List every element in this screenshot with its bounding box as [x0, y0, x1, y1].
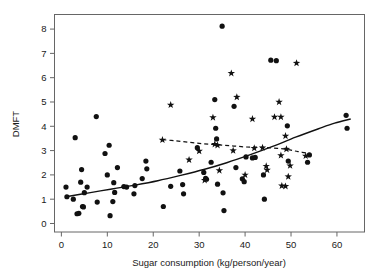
data-point-circle: [105, 172, 110, 177]
data-point-circle: [64, 194, 69, 199]
data-point-circle: [81, 204, 86, 209]
data-point-circle: [63, 184, 68, 189]
x-tick-label-0: 0: [59, 239, 64, 250]
y-tick-label-0: 0: [41, 218, 46, 229]
data-point-circle: [285, 123, 290, 128]
y-tick-label-6: 6: [41, 72, 46, 83]
data-point-circle: [144, 166, 149, 171]
data-point-circle: [344, 113, 349, 118]
data-point-circle: [132, 183, 137, 188]
data-point-circle: [78, 180, 83, 185]
y-axis-title: DMFT: [10, 111, 21, 138]
data-point-circle: [231, 104, 236, 109]
data-point-circle: [107, 213, 112, 218]
data-point-circle: [215, 182, 220, 187]
data-point-circle: [110, 199, 115, 204]
data-point-circle: [242, 179, 247, 184]
x-tick-label-40: 40: [240, 239, 251, 250]
data-point-circle: [305, 160, 310, 165]
data-point-circle: [168, 184, 173, 189]
data-point-circle: [161, 204, 166, 209]
data-point-circle: [201, 170, 206, 175]
x-tick-label-60: 60: [332, 239, 343, 250]
y-tick-label-7: 7: [41, 48, 46, 59]
data-point-circle: [243, 154, 248, 159]
data-point-circle: [143, 158, 148, 163]
data-point-circle: [71, 197, 76, 202]
data-point-circle: [262, 197, 267, 202]
data-point-circle: [177, 168, 182, 173]
data-point-circle: [213, 126, 218, 131]
x-tick-label-30: 30: [194, 239, 205, 250]
data-point-circle: [82, 190, 87, 195]
data-point-circle: [94, 114, 99, 119]
data-point-circle: [181, 191, 186, 196]
chart-background: [0, 0, 386, 279]
data-point-circle: [73, 135, 78, 140]
data-point-circle: [233, 165, 238, 170]
data-point-circle: [253, 155, 258, 160]
x-tick-label-50: 50: [286, 239, 297, 250]
data-point-circle: [274, 58, 279, 63]
y-tick-label-4: 4: [41, 121, 46, 132]
dmft-vs-sugar-scatter-chart: 012345678 0102030405060 Sugar consumptio…: [0, 0, 386, 279]
scatter-plot-figure: 012345678 0102030405060 Sugar consumptio…: [0, 0, 386, 279]
data-point-circle: [79, 167, 84, 172]
data-point-circle: [76, 211, 81, 216]
data-point-circle: [212, 97, 217, 102]
data-point-circle: [180, 182, 185, 187]
data-point-circle: [95, 200, 100, 205]
data-point-circle: [131, 191, 136, 196]
data-point-circle: [220, 190, 225, 195]
x-tick-label-20: 20: [148, 239, 159, 250]
y-tick-label-2: 2: [41, 169, 46, 180]
data-point-circle: [102, 151, 107, 156]
y-axis-tick-labels: 012345678: [41, 23, 46, 228]
data-point-circle: [344, 126, 349, 131]
data-point-circle: [112, 190, 117, 195]
y-tick-label-3: 3: [41, 145, 46, 156]
x-tick-label-10: 10: [102, 239, 113, 250]
data-point-circle: [107, 143, 112, 148]
data-point-circle: [85, 184, 90, 189]
data-point-circle: [115, 165, 120, 170]
data-point-circle: [221, 208, 226, 213]
data-point-circle: [111, 180, 116, 185]
data-point-circle: [209, 160, 214, 165]
y-tick-label-5: 5: [41, 96, 46, 107]
y-tick-label-1: 1: [41, 194, 46, 205]
data-point-circle: [124, 184, 129, 189]
x-axis-title: Sugar consumption (kg/person/year): [132, 257, 286, 268]
data-point-circle: [140, 176, 145, 181]
data-point-circle: [261, 172, 266, 177]
y-tick-label-8: 8: [41, 23, 46, 34]
data-point-circle: [268, 58, 273, 63]
data-point-circle: [220, 24, 225, 29]
